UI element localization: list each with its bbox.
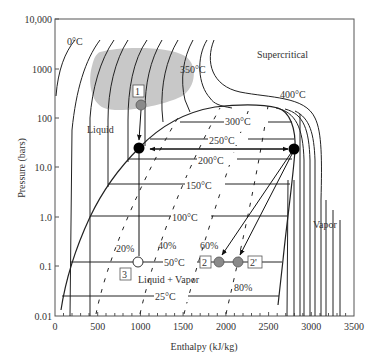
x-axis — [64, 312, 346, 316]
isotherm-label-150c: 150°C — [186, 180, 212, 191]
y-axis-label: Pressure (bars) — [16, 138, 28, 198]
y-tick-0-1: 0.1 — [40, 261, 53, 272]
quality-label-40: 40% — [158, 240, 176, 251]
point-3-label: 3 — [122, 269, 127, 280]
y-tick-10: 10.0 — [35, 162, 53, 173]
pressure-enthalpy-chart: 10,000 1000 100 10.0 1.0 0.1 0.01 Pressu… — [0, 0, 383, 363]
point-1-label: 1 — [135, 86, 140, 97]
saturated-vapor-point — [289, 144, 300, 155]
isotherm-label-100c: 100°C — [172, 212, 198, 223]
x-tick-1500: 1500 — [173, 321, 193, 332]
region-label-vapor: Vapor — [313, 219, 338, 230]
x-tick-500: 500 — [90, 321, 105, 332]
point-1-marker — [136, 100, 146, 110]
region-label-liquid: Liquid — [87, 124, 114, 135]
x-tick-1000: 1000 — [130, 321, 150, 332]
y-axis — [55, 19, 59, 266]
point-2p-label: 2' — [250, 257, 257, 268]
isotherm-label-350c: 350°C — [180, 64, 206, 75]
y-tick-10000: 10,000 — [25, 14, 53, 25]
region-label-supercritical: Supercritical — [257, 49, 308, 60]
vapor-isotherms — [210, 40, 340, 316]
point-2-marker — [214, 257, 224, 267]
quality-label-20: 20% — [116, 243, 134, 254]
quality-label-80: 80% — [234, 282, 252, 293]
isotherm-label-300c: 300°C — [225, 116, 251, 127]
isotherm-label-25c: 25°C — [155, 291, 176, 302]
isotherm-label-400c: 400°C — [280, 89, 306, 100]
y-tick-1000: 1000 — [32, 64, 52, 75]
dome-isotherms — [62, 122, 294, 296]
isotherm-label-0c: 0°C — [67, 36, 83, 47]
point-2-label: 2 — [202, 257, 207, 268]
x-tick-3500: 3500 — [344, 321, 364, 332]
x-tick-2000: 2000 — [216, 321, 236, 332]
isotherm-label-50c: 50°C — [164, 257, 185, 268]
x-tick-2500: 2500 — [259, 321, 279, 332]
x-tick-3000: 3000 — [301, 321, 321, 332]
isotherm-label-250c: 250°C — [209, 135, 235, 146]
isotherm-label-200c: 200°C — [198, 155, 224, 166]
x-tick-0: 0 — [53, 321, 58, 332]
point-2p-marker — [233, 257, 243, 267]
y-tick-0-01: 0.01 — [35, 311, 53, 322]
point-3-marker — [133, 257, 143, 267]
region-label-liquid-vapor: Liquid + Vapor — [138, 274, 200, 285]
quality-label-60: 60% — [200, 240, 218, 251]
y-tick-100: 100 — [37, 113, 52, 124]
saturated-liquid-point — [134, 143, 145, 154]
x-axis-label: Enthalpy (kJ/kg) — [171, 341, 238, 353]
y-tick-1: 1.0 — [40, 212, 53, 223]
